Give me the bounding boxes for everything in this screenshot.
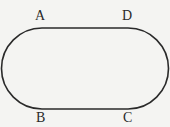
stadium-outline <box>1 28 168 109</box>
point-label-a: A <box>35 9 45 23</box>
stadium-shape <box>0 0 170 127</box>
point-label-b: B <box>36 111 45 125</box>
point-label-c: C <box>123 111 132 125</box>
point-label-d: D <box>122 9 132 23</box>
